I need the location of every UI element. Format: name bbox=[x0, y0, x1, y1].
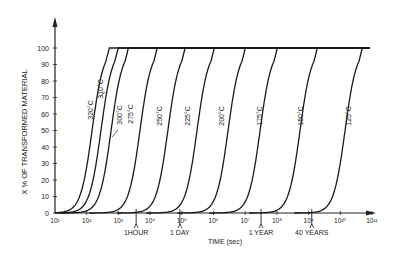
x-tick-label: 10¹ bbox=[50, 217, 60, 224]
x-tick-label: 10¹⁰ bbox=[334, 217, 346, 224]
time-marker-arrow-icon bbox=[178, 224, 182, 228]
x-tick-label: 10¹¹ bbox=[366, 217, 378, 224]
time-marker-label: 1HOUR bbox=[124, 229, 149, 236]
curve-label: 310°C bbox=[97, 79, 104, 99]
curve-label: 275°C bbox=[127, 104, 134, 124]
x-axis-label: TIME (sec) bbox=[208, 238, 242, 246]
curve-225c bbox=[146, 48, 370, 213]
curve-label: 175°C bbox=[256, 106, 263, 126]
y-tick-label: 20 bbox=[41, 177, 49, 184]
x-tick-label: 10² bbox=[82, 217, 92, 224]
y-tick-label: 60 bbox=[41, 111, 49, 118]
curve-320c bbox=[55, 48, 370, 213]
x-tick-label: 10³ bbox=[114, 217, 124, 224]
curve-label: 320°C bbox=[87, 100, 94, 120]
curve-labels: 320°C310°C300°C275°C250°C225°C200°C175°C… bbox=[87, 79, 352, 137]
curve-125c bbox=[294, 48, 370, 213]
y-tick-label: 80 bbox=[41, 78, 49, 85]
transformation-curves-chart: 010203040506070809010010¹10²10³10⁴10⁵10⁶… bbox=[0, 0, 400, 261]
y-tick-label: 90 bbox=[41, 61, 49, 68]
curve-label: 125°C bbox=[345, 106, 352, 126]
time-marker-label: 1 YEAR bbox=[249, 229, 274, 236]
x-tick-label: 10⁷ bbox=[240, 217, 250, 224]
y-tick-label: 70 bbox=[41, 94, 49, 101]
time-marker-label: 1 DAY bbox=[170, 229, 190, 236]
curve-label: 300°C bbox=[116, 105, 123, 125]
x-tick-label: 10⁹ bbox=[304, 217, 314, 224]
y-tick-label: 0 bbox=[45, 210, 49, 217]
y-axis-label: X % OF TRANSFORMED MATERIAL bbox=[20, 69, 29, 194]
y-tick-label: 100 bbox=[37, 45, 49, 52]
x-axis-arrow-icon bbox=[366, 211, 376, 216]
curve-300c bbox=[60, 48, 370, 213]
y-tick-label: 10 bbox=[41, 193, 49, 200]
curve-150c bbox=[249, 48, 370, 213]
curve-label: 225°C bbox=[184, 106, 191, 126]
curve-label: 250°C bbox=[156, 106, 163, 126]
x-tick-label: 10⁶ bbox=[209, 217, 219, 224]
time-marker-arrow-icon bbox=[310, 224, 314, 228]
curve-label: 200°C bbox=[218, 106, 225, 126]
y-axis-arrow-icon bbox=[53, 17, 58, 27]
x-tick-label: 10⁴ bbox=[145, 217, 155, 224]
curve-275c bbox=[89, 48, 370, 213]
leader-line-300 bbox=[112, 130, 118, 137]
time-marker-arrow-icon bbox=[259, 224, 263, 228]
axes: 010203040506070809010010¹10²10³10⁴10⁵10⁶… bbox=[37, 17, 378, 236]
curve-250c bbox=[117, 48, 370, 213]
time-marker-arrow-icon bbox=[134, 224, 138, 228]
y-tick-label: 50 bbox=[41, 127, 49, 134]
chart-svg: 010203040506070809010010¹10²10³10⁴10⁵10⁶… bbox=[0, 0, 400, 261]
curve-label: 150°C bbox=[297, 106, 304, 126]
curves bbox=[55, 48, 370, 213]
time-marker-label: 40 YEARS bbox=[295, 229, 329, 236]
x-tick-label: 10⁵ bbox=[177, 217, 187, 224]
y-tick-label: 40 bbox=[41, 144, 49, 151]
y-tick-label: 30 bbox=[41, 160, 49, 167]
x-tick-label: 10⁸ bbox=[272, 217, 282, 224]
